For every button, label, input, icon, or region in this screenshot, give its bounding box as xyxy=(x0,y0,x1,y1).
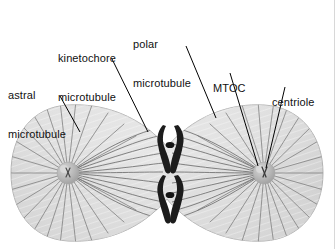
label-mtoc: MTOC xyxy=(213,56,246,108)
label-kinetochore-microtubule: kinetochore microtubule xyxy=(58,26,116,117)
label-polar-microtubule: polar microtubule xyxy=(133,12,191,103)
label-centriole: centriole xyxy=(272,70,314,122)
label-mtoc-line1: MTOC xyxy=(213,82,246,95)
label-polar-microtubule-line1: polar xyxy=(133,38,191,51)
label-kinetochore-microtubule-line1: kinetochore xyxy=(58,52,116,65)
label-centriole-line1: centriole xyxy=(272,96,314,109)
label-polar-microtubule-line2: microtubule xyxy=(133,77,191,90)
label-astral-microtubule-line2: microtubule xyxy=(8,128,66,141)
mtoc-right xyxy=(253,162,275,184)
mtoc-left xyxy=(57,162,79,184)
label-kinetochore-microtubule-line2: microtubule xyxy=(58,91,116,104)
